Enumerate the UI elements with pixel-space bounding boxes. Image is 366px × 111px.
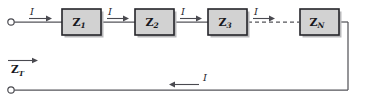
current-arrow-3-head [196,16,202,22]
current-arrow-1: I [29,6,52,21]
zt-overarrow-head [32,58,38,63]
current-label-return: I [202,72,208,83]
current-arrow-return-head [169,82,175,88]
impedance-block-z3: Z3 [208,9,250,38]
current-label-4: I [253,6,259,17]
bottom-input-terminal [8,87,14,93]
impedance-block-z2: Z2 [135,9,177,38]
current-label-2: I [107,6,113,17]
current-arrow-2-head [123,16,129,22]
total-impedance-label: ZT [8,58,38,78]
current-label-1: I [29,6,35,17]
impedance-block-z1: Z1 [62,9,104,38]
circuit-diagram-svg: Z1 Z2 Z3 ZN I [0,0,366,111]
circuit-diagram-figure: Z1 Z2 Z3 ZN I [0,0,366,111]
current-arrow-2: I [107,6,129,21]
top-input-terminal [8,19,14,25]
current-arrow-4: I [253,6,275,21]
z3-symbol: Z [218,16,226,29]
current-arrow-return: I [169,72,208,87]
z2-symbol: Z [145,16,153,29]
z2-subscript: 2 [152,21,158,30]
zt-text: ZT [11,63,25,78]
zn-symbol: Z [310,16,318,29]
current-arrow-4-head [269,16,275,22]
current-arrow-1-head [46,16,52,22]
z1-subscript: 1 [80,21,85,30]
current-label-3: I [180,6,186,17]
current-arrow-3: I [180,6,202,21]
z1-symbol: Z [72,16,80,29]
impedance-block-zn: ZN [300,9,342,38]
zn-subscript: N [317,21,326,30]
z3-subscript: 3 [226,21,231,30]
zt-subscript: T [19,69,25,78]
